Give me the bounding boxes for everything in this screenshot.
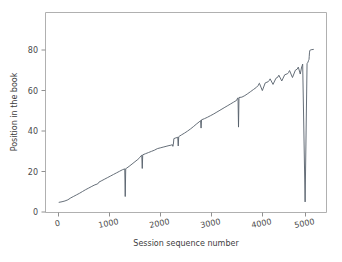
x-tick-label: 1000: [98, 217, 120, 230]
y-tick-labels: 0 20 40 60 80: [28, 46, 38, 217]
x-axis-title: Session sequence number: [133, 239, 239, 248]
y-tick-label: 20: [28, 168, 38, 177]
line-chart-plot: 0 1000 2000 3000 4000 5000 0 20 40 60 80…: [0, 0, 342, 262]
y-tick-label: 80: [28, 46, 38, 55]
y-axis-title: Position in the book: [10, 72, 19, 151]
x-tick-label: 0: [54, 219, 61, 229]
x-tick-label: 3000: [200, 217, 222, 230]
x-tick-label: 2000: [149, 217, 171, 230]
y-axis-ticks: [42, 50, 46, 212]
chart-figure: 0 1000 2000 3000 4000 5000 0 20 40 60 80…: [0, 0, 342, 262]
y-tick-label: 40: [28, 127, 38, 136]
y-tick-label: 0: [33, 208, 38, 217]
x-tick-labels: 0 1000 2000 3000 4000 5000: [54, 217, 315, 230]
plot-background: [45, 12, 327, 213]
x-tick-label: 5000: [294, 217, 316, 230]
x-tick-label: 4000: [251, 217, 273, 230]
x-axis-ticks: [59, 213, 306, 217]
y-tick-label: 60: [28, 87, 38, 96]
